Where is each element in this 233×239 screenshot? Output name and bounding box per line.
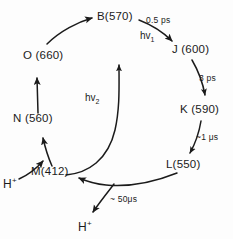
- arrow-o-to-b: [47, 18, 92, 44]
- node-label-b: B(570): [97, 10, 133, 22]
- edge-label-b-to-j: 0.5 ps: [146, 15, 170, 25]
- ion-label-proton-release: H+: [78, 219, 92, 234]
- ion-label-proton-uptake: H+: [3, 176, 17, 191]
- arrow-m-to-n: [43, 138, 52, 166]
- node-label-o: O (660): [23, 49, 63, 61]
- photon-label-hv2: hv2: [85, 92, 99, 105]
- photocycle-diagram: B(570) J (600) K (590) L(550) M(412) N (…: [0, 0, 233, 239]
- edge-label-j-to-k: 3 ps: [199, 73, 216, 83]
- node-label-j: J (600): [172, 43, 209, 55]
- ion-label-bottom-charge: +: [87, 219, 92, 228]
- arrow-m-to-b-photon: [66, 65, 119, 175]
- photon-label-hv1: hv1: [140, 30, 154, 43]
- node-label-k: K (590): [180, 103, 219, 115]
- arrow-n-to-o: [37, 78, 38, 113]
- photon-label-hv1-subscript: 1: [151, 36, 155, 43]
- photon-label-hv1-text: hv: [140, 30, 151, 41]
- node-label-l: L(550): [166, 158, 200, 170]
- arrow-l-to-m: [79, 173, 177, 186]
- node-label-n: N (560): [13, 112, 53, 124]
- ion-label-bottom-text: H: [78, 220, 87, 234]
- ion-label-left-text: H: [3, 177, 12, 191]
- ion-label-left-charge: +: [12, 176, 17, 185]
- edge-label-k-to-l: ~1 μs: [196, 132, 218, 142]
- edge-label-l-to-m: ~ 50μs: [110, 194, 137, 204]
- photon-label-hv2-subscript: 2: [96, 98, 100, 105]
- node-label-m: M(412): [31, 165, 69, 177]
- photon-label-hv2-text: hv: [85, 92, 96, 103]
